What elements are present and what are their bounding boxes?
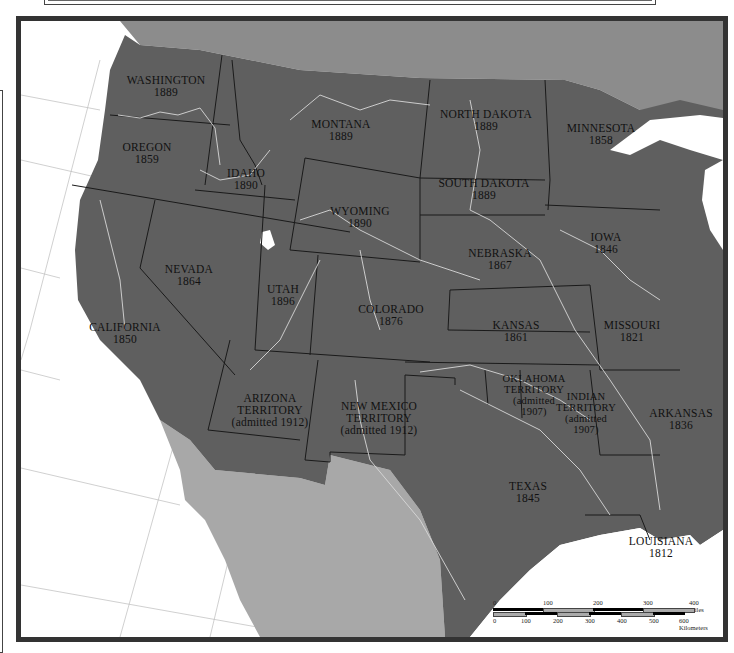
scale-km-500: 500	[649, 617, 659, 624]
state-label-louisiana: LOUISIANA1812	[629, 535, 693, 559]
state-label-california: CALIFORNIA1850	[89, 321, 161, 345]
state-label-arkansas: ARKANSAS1836	[649, 407, 713, 431]
state-label-nevada: NEVADA1864	[165, 263, 213, 287]
top-panel-frame	[44, 0, 656, 5]
state-label-iowa: IOWA1846	[591, 231, 622, 255]
state-label-washington: WASHINGTON1889	[127, 74, 205, 98]
state-label-texas: TEXAS1845	[509, 480, 547, 504]
scale-miles-300: 300	[643, 599, 653, 606]
scale-km-300: 300	[585, 617, 595, 624]
state-label-arizona: ARIZONATERRITORY(admitted 1912)	[232, 392, 309, 428]
scale-km-0: 0	[493, 617, 496, 624]
state-label-minnesota: MINNESOTA1858	[567, 122, 636, 146]
state-label-nebraska: NEBRASKA1867	[468, 247, 532, 271]
scale-miles-200: 200	[593, 599, 603, 606]
scale-km-100: 100	[521, 617, 531, 624]
scale-miles-0: 0	[493, 599, 496, 606]
map-frame: WASHINGTON1889 OREGON1859 IDAHO1890 MONT…	[16, 16, 728, 642]
scale-miles-100: 100	[543, 599, 553, 606]
left-panel-frame	[0, 90, 3, 653]
state-label-kansas: KANSAS1861	[492, 319, 539, 343]
state-label-montana: MONTANA1889	[311, 118, 370, 142]
state-label-missouri: MISSOURI1821	[604, 319, 661, 343]
scale-km-200: 200	[553, 617, 563, 624]
state-label-utah: UTAH1896	[267, 283, 299, 307]
state-label-colorado: COLORADO1876	[358, 303, 424, 327]
scale-km-600: 600 Kilometers	[679, 617, 711, 631]
state-label-wyoming: WYOMING1890	[330, 205, 390, 229]
state-label-new-mexico: NEW MEXICOTERRITORY(admitted 1912)	[341, 400, 418, 436]
state-label-south-dakota: SOUTH DAKOTA1889	[438, 177, 529, 201]
state-label-north-dakota: NORTH DAKOTA1889	[440, 108, 532, 132]
state-label-oregon: OREGON1859	[122, 141, 171, 165]
state-label-indian-territory: INDIANTERRITORY(admitted1907)	[556, 391, 616, 435]
scale-bar: 0 100 200 300 400 Miles 0 100 200 300 40…	[491, 599, 711, 629]
state-label-idaho: IDAHO1890	[227, 167, 265, 191]
scale-km-400: 400	[617, 617, 627, 624]
